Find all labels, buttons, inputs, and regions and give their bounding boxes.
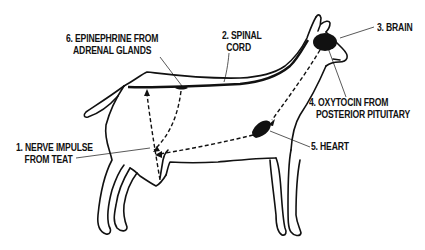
goat-belly <box>166 158 276 175</box>
goat-illustration <box>0 0 425 250</box>
goat-mouth <box>333 59 340 60</box>
label-oxytocin: 4. OXYTOCIN FROM POSTERIOR PITUITARY <box>309 97 410 121</box>
label-spinal-cord-line2: CORD <box>222 42 262 54</box>
leader-epinephrine <box>160 57 182 86</box>
label-brain: 3. BRAIN <box>377 22 412 34</box>
leader-heart <box>270 131 310 147</box>
label-oxytocin-line2: POSTERIOR PITUITARY <box>309 109 410 121</box>
goat-hind-leg-near <box>98 86 124 234</box>
goat-front-leg-near <box>270 158 286 235</box>
label-oxytocin-line1: 4. OXYTOCIN FROM <box>309 97 410 109</box>
goat-front-leg-rear <box>288 150 301 236</box>
goat-ear-left <box>316 15 321 31</box>
epinephrine-pathway <box>154 91 181 150</box>
label-heart-line1: 5. HEART <box>311 141 349 153</box>
label-spinal-cord: 2. SPINAL CORD <box>222 30 262 54</box>
arrow-head-spinal <box>144 89 150 96</box>
goat-tail <box>84 86 124 117</box>
label-nerve-impulse-line1: 1. NERVE IMPULSE <box>16 142 93 154</box>
label-spinal-cord-line1: 2. SPINAL <box>222 30 262 42</box>
heart-to-udder-pathway <box>160 135 253 154</box>
label-epinephrine: 6. EPINEPHRINE FROM ADRENAL GLANDS <box>66 33 158 57</box>
label-heart: 5. HEART <box>311 141 349 153</box>
goat-ear-right <box>321 21 330 32</box>
heart-shape <box>252 120 271 138</box>
label-epinephrine-line2: ADRENAL GLANDS <box>66 45 158 57</box>
label-epinephrine-line1: 6. EPINEPHRINE FROM <box>66 33 158 45</box>
leader-oxytocin <box>328 48 346 97</box>
label-brain-line1: 3. BRAIN <box>377 22 412 34</box>
leader-brain <box>340 27 374 38</box>
label-nerve-impulse-line2: FROM TEAT <box>16 154 93 166</box>
label-nerve-impulse: 1. NERVE IMPULSE FROM TEAT <box>16 142 93 166</box>
nerve-pathway-up <box>147 94 160 180</box>
cropped-caption <box>36 245 416 250</box>
milk-letdown-diagram: 6. EPINEPHRINE FROM ADRENAL GLANDS 2. SP… <box>0 0 425 250</box>
brain-shape <box>313 33 337 51</box>
